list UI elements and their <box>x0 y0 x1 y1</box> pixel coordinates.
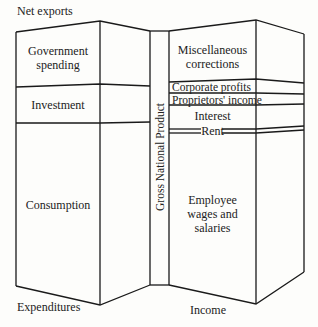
employee-wages-label: Employee wages and salaries <box>169 193 256 235</box>
rent-label: Rent <box>169 124 256 138</box>
misc-corrections-label: Miscellaneous corrections <box>169 43 256 71</box>
expenditures-outline <box>16 21 150 32</box>
expenditures-title: Expenditures <box>17 300 80 314</box>
misc-corrections-line2: corrections <box>169 57 256 71</box>
consumption-label: Consumption <box>16 198 100 212</box>
employee-wages-line2: wages and <box>169 207 256 221</box>
proprietors-income-label: Proprietors' income <box>172 93 262 107</box>
employee-wages-line3: salaries <box>169 221 256 235</box>
net-exports-label: Net exports <box>17 4 73 18</box>
government-spending-line1: Government <box>16 44 100 58</box>
government-spending-line2: spending <box>16 58 100 72</box>
income-title: Income <box>190 303 226 317</box>
gnp-label: Gross National Product <box>154 92 166 222</box>
divider-gov-investment <box>16 84 150 87</box>
government-spending-label: Government spending <box>16 44 100 72</box>
corporate-profits-label: Corporate profits <box>172 80 251 94</box>
divider-investment-consumption <box>16 122 150 123</box>
misc-corrections-line1: Miscellaneous <box>169 43 256 57</box>
income-outline <box>169 20 304 34</box>
employee-wages-line1: Employee <box>169 193 256 207</box>
interest-label: Interest <box>169 109 256 123</box>
investment-label: Investment <box>16 98 100 112</box>
